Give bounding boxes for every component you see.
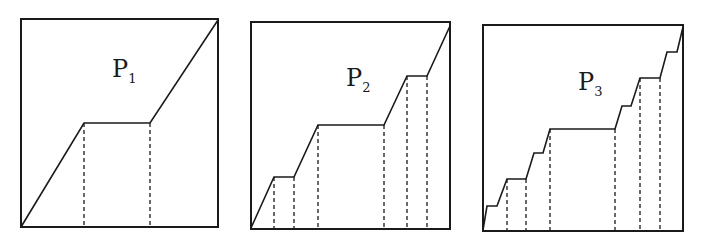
step-curve bbox=[483, 27, 683, 230]
panel-label: P2 bbox=[346, 64, 370, 95]
panel-p1: P1 bbox=[21, 19, 218, 227]
panel-label-subscript: 2 bbox=[362, 80, 370, 95]
refinement-diagram: P1 P2 P3 bbox=[0, 0, 705, 244]
step-curve bbox=[21, 20, 218, 227]
panel-p3: P3 bbox=[483, 25, 683, 231]
dashed-drop-lines bbox=[84, 123, 150, 227]
dashed-drop-lines bbox=[274, 76, 427, 229]
panel-p2: P2 bbox=[251, 22, 450, 229]
dashed-drop-lines bbox=[507, 78, 660, 231]
panel-label-subscript: 3 bbox=[594, 84, 602, 99]
panel-label: P1 bbox=[112, 55, 136, 86]
panel-frame bbox=[483, 25, 683, 231]
step-curve bbox=[251, 26, 450, 228]
panel-label: P3 bbox=[578, 68, 602, 99]
panel-label-subscript: 1 bbox=[128, 71, 136, 86]
